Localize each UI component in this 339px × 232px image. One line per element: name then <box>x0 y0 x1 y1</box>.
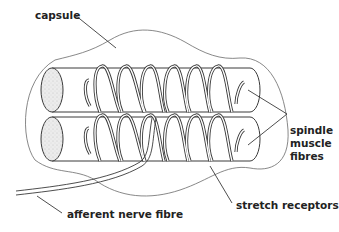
stretch-receptors-label: stretch receptors <box>236 199 339 211</box>
capsule-outline <box>25 30 288 196</box>
spindle-label-line3: fibres <box>290 150 333 163</box>
spindle-label-line1: spindle <box>290 124 333 137</box>
spindle-muscle-fibres-label: spindle muscle fibres <box>290 124 333 163</box>
capsule-label: capsule <box>35 9 80 21</box>
afferent-nerve-fibre-label: afferent nerve fibre <box>67 208 183 220</box>
spindle-label-line2: muscle <box>290 137 333 150</box>
